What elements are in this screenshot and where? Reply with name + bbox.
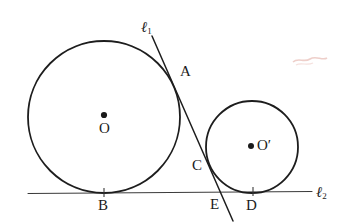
point-label-C: C bbox=[192, 158, 202, 173]
point-label-B: B bbox=[98, 198, 108, 213]
line-label-l1: ℓ1 bbox=[141, 20, 152, 35]
center-label-O-prime: O′ bbox=[257, 138, 271, 153]
point-label-E: E bbox=[210, 197, 219, 212]
point-label-A: A bbox=[180, 64, 191, 79]
geometry-canvas bbox=[0, 0, 348, 223]
line-label-l2-sub: 2 bbox=[322, 191, 327, 201]
tangent-line-l1 bbox=[152, 36, 233, 221]
line-label-l1-sub: 1 bbox=[147, 26, 152, 36]
center-dot-O bbox=[101, 112, 107, 118]
geometry-figure: A B C D E O O′ ℓ1 ℓ2 bbox=[0, 0, 348, 223]
line-label-l2: ℓ2 bbox=[316, 185, 327, 200]
base-line-l2 bbox=[28, 192, 312, 194]
center-dot-O-prime bbox=[248, 143, 254, 149]
point-label-D: D bbox=[246, 198, 257, 213]
center-label-O: O bbox=[99, 121, 110, 136]
